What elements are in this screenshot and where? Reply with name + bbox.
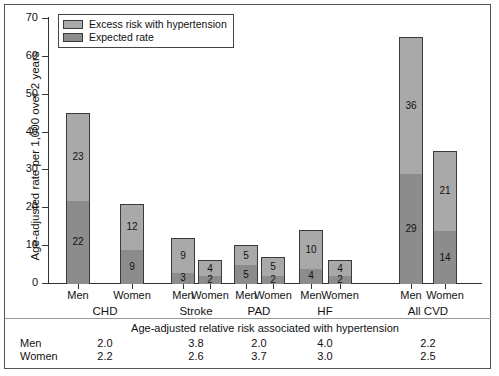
bar-value-expected: 9 [129,262,135,272]
bar-segment-expected: 2 [199,276,221,284]
risk-value-stroke-men: 3.8 [168,337,224,350]
bar-pad-men[interactable]: 55 [234,245,258,283]
bar-value-excess: 21 [439,186,450,196]
bar-hf-men[interactable]: 104 [299,230,323,283]
x-label-all-cvd-women: Women [417,289,473,301]
bar-segment-excess: 5 [235,246,257,265]
bar-value-expected: 5 [243,270,249,280]
bar-value-expected: 22 [72,237,83,247]
bar-value-expected: 14 [439,253,450,263]
bar-chd-men[interactable]: 2322 [66,113,90,283]
y-tick-mark [42,94,48,95]
risk-table-divider [5,318,491,319]
bar-segment-expected: 2 [262,276,284,284]
risk-value-chd-women: 2.2 [77,350,133,363]
group-label-hf: HF [280,305,370,317]
bar-segment-expected: 29 [400,174,422,284]
bar-segment-expected: 14 [434,231,456,284]
legend-swatch-expected [63,33,83,42]
legend: Excess risk with hypertension Expected r… [58,14,234,48]
group-label-all-cvd: All CVD [383,305,473,317]
bar-segment-excess: 9 [172,239,194,273]
y-tick-label: 10 [4,239,38,250]
x-label-hf-women: Women [312,289,368,301]
bar-chd-women[interactable]: 129 [120,204,144,284]
y-tick-label: 30 [4,163,38,174]
plot-area: Age-adjusted rate per 1,000 over 2 years… [0,0,499,376]
risk-value-chd-men: 2.0 [77,337,133,350]
risk-row-label-women: Women [20,350,76,363]
risk-value-pad-women: 3.7 [231,350,287,363]
risk-value-pad-men: 2.0 [231,337,287,350]
bar-segment-expected: 5 [235,265,257,284]
y-tick-label: 70 [4,12,38,23]
x-label-chd-women: Women [104,289,160,301]
bar-value-excess: 4 [337,264,343,274]
y-tick-mark [42,18,48,19]
bar-value-expected: 29 [405,224,416,234]
risk-value-hf-women: 3.0 [297,350,353,363]
bar-segment-expected: 2 [329,276,351,284]
y-tick-mark [42,245,48,246]
bar-segment-expected: 4 [300,269,322,284]
x-label-chd-men: Men [50,289,106,301]
y-tick-mark [42,207,48,208]
y-axis-line [48,17,49,284]
legend-item-expected: Expected rate [63,31,227,44]
bar-segment-excess: 21 [434,152,456,232]
bar-all-cvd-men[interactable]: 3629 [399,37,423,283]
bar-pad-women[interactable]: 52 [261,257,285,284]
legend-item-excess: Excess risk with hypertension [63,18,227,31]
y-tick-label: 20 [4,201,38,212]
y-tick-mark [42,56,48,57]
bar-value-excess: 12 [126,222,137,232]
bar-value-excess: 5 [270,262,276,272]
y-tick-label: 0 [4,277,38,288]
risk-value-stroke-women: 2.6 [168,350,224,363]
bar-segment-excess: 23 [67,114,89,201]
y-tick-label: 50 [4,88,38,99]
bar-value-excess: 5 [243,251,249,261]
bar-segment-expected: 3 [172,273,194,284]
bar-segment-expected: 22 [67,201,89,284]
bar-value-excess: 10 [305,245,316,255]
bar-value-excess: 36 [405,101,416,111]
legend-label-expected: Expected rate [89,32,154,43]
bar-segment-excess: 12 [121,205,143,250]
y-tick-label: 40 [4,126,38,137]
y-tick-mark [42,132,48,133]
bar-value-excess: 9 [180,251,186,261]
bar-stroke-men[interactable]: 93 [171,238,195,283]
bar-hf-women[interactable]: 42 [328,260,352,283]
risk-value-all-cvd-women: 2.5 [400,350,456,363]
risk-row-label-men: Men [20,337,76,350]
risk-value-hf-men: 4.0 [297,337,353,350]
figure-root: Age-adjusted rate per 1,000 over 2 years… [0,0,499,376]
legend-label-excess: Excess risk with hypertension [89,19,227,30]
bar-all-cvd-women[interactable]: 2114 [433,151,457,284]
bar-value-expected: 3 [180,273,186,283]
y-tick-mark [42,169,48,170]
y-tick-mark [42,283,48,284]
risk-table-title: Age-adjusted relative risk associated wi… [48,322,482,334]
y-tick-label: 60 [4,50,38,61]
bar-segment-excess: 10 [300,231,322,269]
bar-value-excess: 23 [72,152,83,162]
bar-segment-excess: 36 [400,38,422,174]
bar-value-expected: 4 [308,271,314,281]
bar-segment-expected: 9 [121,250,143,284]
group-label-chd: CHD [60,305,150,317]
bar-stroke-women[interactable]: 42 [198,260,222,283]
legend-swatch-excess [63,20,83,29]
risk-value-all-cvd-men: 2.2 [400,337,456,350]
bar-value-expected: 2 [270,275,276,285]
bar-value-expected: 2 [207,275,213,285]
bar-value-excess: 4 [207,264,213,274]
bar-value-expected: 2 [337,275,343,285]
